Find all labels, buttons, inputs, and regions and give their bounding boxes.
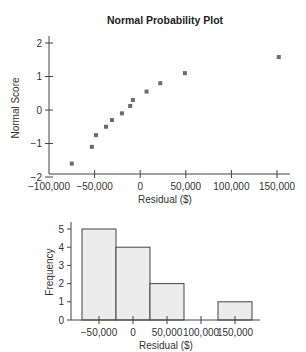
y-tick-label: 1: [36, 71, 42, 82]
x-axis-label: Residual ($): [138, 194, 192, 205]
histogram-bar: [82, 229, 116, 320]
histogram-bars: [82, 229, 252, 320]
x-tick-label: 0: [130, 327, 136, 338]
x-axis-label: Residual ($): [139, 340, 193, 351]
x-tick-label: 50,000: [171, 181, 202, 192]
plot-title: Normal Probability Plot: [107, 14, 224, 26]
data-point: [90, 145, 94, 149]
x-ticks: −100,000−50,000050,000100,000150,000: [28, 170, 296, 192]
y-ticks: −2−1012: [31, 38, 53, 183]
x-tick-label: 150,000: [217, 327, 254, 338]
x-tick-label: −50,000: [81, 327, 118, 338]
x-tick-label: −100,000: [28, 181, 70, 192]
data-point: [183, 71, 187, 75]
y-tick-label: 2: [36, 38, 42, 49]
data-point: [158, 81, 162, 85]
y-tick-label: 5: [58, 224, 64, 235]
x-tick-label: −50,000: [76, 181, 113, 192]
data-point: [110, 118, 114, 122]
data-point: [277, 55, 281, 59]
y-tick-label: 2: [58, 278, 64, 289]
x-tick-label: 0: [137, 181, 143, 192]
residual-histogram: 012345 −50,000050,000100,000150,000 Resi…: [44, 222, 260, 351]
histogram-bar: [150, 284, 184, 320]
y-ticks: 012345: [58, 224, 71, 326]
data-point: [70, 162, 74, 166]
y-tick-label: 1: [58, 296, 64, 307]
y-tick-label: 0: [36, 105, 42, 116]
x-tick-label: 100,000: [213, 181, 250, 192]
x-tick-label: 50,000: [152, 327, 183, 338]
y-tick-label: 4: [58, 242, 64, 253]
y-tick-label: 3: [58, 260, 64, 271]
data-point: [128, 104, 132, 108]
x-tick-label: 150,000: [259, 181, 296, 192]
data-point: [120, 111, 124, 115]
y-tick-label: 0: [58, 315, 64, 326]
data-point: [131, 98, 135, 102]
data-points: [70, 55, 281, 166]
data-point: [94, 133, 98, 137]
chart-canvas: Normal Probability Plot −2−1012 −100,000…: [0, 0, 306, 352]
histogram-bar: [116, 247, 150, 320]
y-tick-label: −1: [31, 138, 43, 149]
x-tick-label: 100,000: [183, 327, 220, 338]
data-point: [104, 125, 108, 129]
data-point: [145, 90, 149, 94]
y-axis-label: Normal Score: [10, 77, 21, 139]
normal-probability-plot: Normal Probability Plot −2−1012 −100,000…: [10, 14, 296, 205]
y-axis-label: Frequency: [44, 248, 55, 295]
